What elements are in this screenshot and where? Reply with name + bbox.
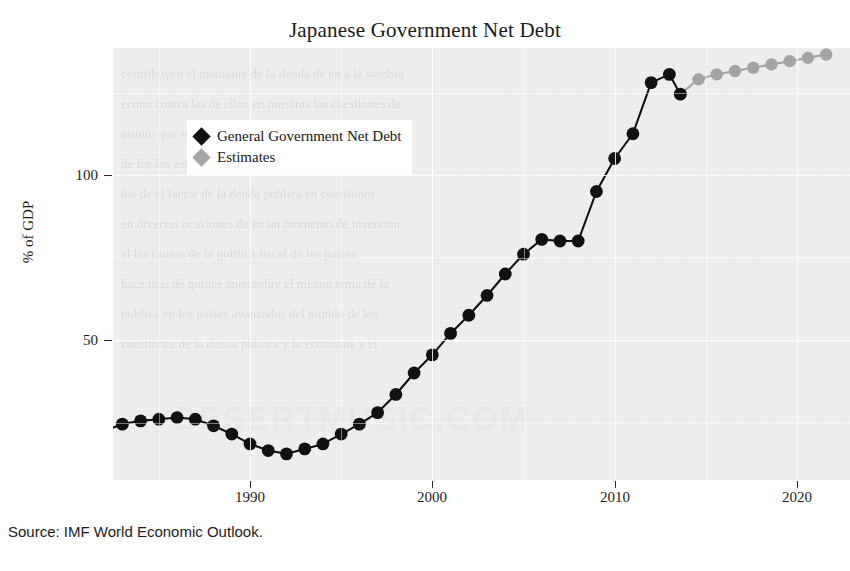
data-point-observed bbox=[207, 419, 220, 432]
plot-svg bbox=[113, 48, 850, 480]
gridline-vertical-minor bbox=[524, 48, 525, 480]
data-point-observed bbox=[499, 268, 512, 281]
data-point-observed bbox=[444, 327, 457, 340]
x-tick-label-2020: 2020 bbox=[762, 489, 832, 506]
gridline-vertical bbox=[797, 48, 798, 480]
data-point-observed bbox=[627, 127, 640, 140]
data-point-observed bbox=[462, 309, 475, 322]
gridline-horizontal bbox=[113, 175, 850, 176]
data-point-observed bbox=[317, 438, 330, 451]
chart-title: Japanese Government Net Debt bbox=[0, 18, 850, 43]
data-point-estimate bbox=[765, 58, 777, 70]
data-point-observed bbox=[590, 185, 603, 198]
data-point-observed bbox=[645, 76, 658, 89]
plot-area: contribuyen el montante de la deuda de e… bbox=[113, 48, 850, 480]
gridline-vertical bbox=[615, 48, 616, 480]
data-point-estimate bbox=[820, 48, 832, 60]
gridline-vertical-minor bbox=[159, 48, 160, 480]
gridline-horizontal-minor bbox=[113, 423, 850, 424]
y-axis-label: % of GDP bbox=[20, 201, 37, 264]
y-tick-label-50: 50 bbox=[34, 332, 98, 349]
x-tick-label-2000: 2000 bbox=[397, 489, 467, 506]
source-caption: Source: IMF World Economic Outlook. bbox=[8, 523, 263, 540]
data-point-estimate bbox=[711, 68, 723, 80]
legend-item-estimates: Estimates bbox=[195, 147, 402, 168]
data-point-observed bbox=[663, 68, 676, 81]
data-point-observed bbox=[116, 418, 129, 431]
y-tick-mark-50 bbox=[104, 340, 112, 341]
gridline-vertical-minor bbox=[706, 48, 707, 480]
data-point-observed bbox=[674, 88, 687, 101]
data-point-observed bbox=[298, 443, 311, 456]
data-point-estimate bbox=[729, 65, 741, 77]
data-point-observed bbox=[371, 406, 384, 419]
data-point-observed bbox=[353, 418, 366, 431]
legend-diamond-icon-observed bbox=[192, 127, 210, 145]
x-tick-label-2010: 2010 bbox=[580, 489, 650, 506]
data-point-observed bbox=[189, 413, 202, 426]
data-point-observed bbox=[134, 414, 147, 427]
legend-diamond-icon-estimates bbox=[192, 148, 210, 166]
data-point-observed bbox=[389, 388, 402, 401]
gridline-horizontal-minor bbox=[113, 93, 850, 94]
x-tick-mark-1990 bbox=[250, 481, 251, 488]
data-point-observed bbox=[535, 233, 548, 246]
legend-label-observed: General Government Net Debt bbox=[217, 128, 402, 145]
legend-item-observed: General Government Net Debt bbox=[195, 126, 402, 147]
gridline-horizontal-minor bbox=[113, 258, 850, 259]
data-point-estimate bbox=[692, 73, 704, 85]
data-point-observed bbox=[280, 447, 293, 460]
y-tick-mark-100 bbox=[104, 175, 112, 176]
data-point-observed bbox=[481, 289, 494, 302]
data-point-observed bbox=[572, 235, 585, 248]
gridline-vertical-minor bbox=[341, 48, 342, 480]
data-point-observed bbox=[408, 367, 421, 380]
data-point-observed bbox=[554, 235, 567, 248]
data-point-observed bbox=[262, 444, 275, 457]
data-point-estimate bbox=[784, 55, 796, 67]
x-tick-mark-2010 bbox=[615, 481, 616, 488]
data-point-observed bbox=[225, 428, 238, 441]
data-point-estimate bbox=[747, 62, 759, 74]
x-tick-label-1990: 1990 bbox=[215, 489, 285, 506]
gridline-vertical bbox=[432, 48, 433, 480]
gridline-horizontal bbox=[113, 340, 850, 341]
legend-label-estimates: Estimates bbox=[217, 149, 275, 166]
data-point-estimate bbox=[802, 52, 814, 64]
chart-figure: Japanese Government Net Debt contribuyen… bbox=[0, 0, 850, 571]
chart-legend: General Government Net Debt Estimates bbox=[187, 120, 412, 175]
y-tick-label-100: 100 bbox=[34, 167, 98, 184]
gridline-vertical bbox=[250, 48, 251, 480]
x-tick-mark-2000 bbox=[432, 481, 433, 488]
x-tick-mark-2020 bbox=[797, 481, 798, 488]
